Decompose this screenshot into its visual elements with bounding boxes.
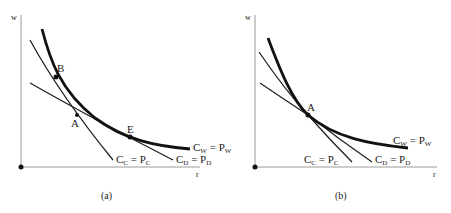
point-label-e-a: E: [127, 123, 134, 135]
caption-b: (b): [335, 190, 347, 202]
caption-a: (a): [101, 190, 112, 202]
curve-cc-b: [259, 52, 352, 162]
x-axis-label-a: r: [196, 170, 199, 179]
origin-dot-a: [19, 165, 24, 170]
origin-dot-b: [253, 165, 258, 170]
curve-label-cd-a: CD = PD: [176, 153, 211, 167]
point-b-a: [54, 75, 59, 80]
x-axis-label-b: r: [433, 170, 436, 179]
point-a-b: [306, 113, 311, 118]
y-axis-label-a: w: [11, 13, 17, 22]
point-label-b-a: B: [57, 62, 64, 74]
curve-label-cw-a: CW = PW: [193, 141, 232, 155]
point-e-a: [128, 135, 133, 140]
curve-label-cd-b: CD = PD: [375, 153, 410, 167]
point-label-a-b: A: [307, 101, 315, 113]
curve-cw-a: [42, 29, 190, 149]
panel-a: w r B A E CC = PC CD = PD CW = PW (a): [11, 13, 232, 202]
curve-label-cc-b: CC = PC: [304, 153, 339, 167]
point-label-a-a: A: [71, 117, 79, 129]
figure-canvas: w r B A E CC = PC CD = PD CW = PW (a) w: [0, 0, 451, 213]
panel-b: w r A CC = PC CD = PD CW = PW (b): [245, 13, 437, 202]
y-axis-label-b: w: [245, 13, 251, 22]
curve-label-cc-a: CC = PC: [116, 153, 151, 167]
curve-label-cw-b: CW = PW: [393, 134, 432, 148]
curve-cc-a: [30, 40, 113, 160]
